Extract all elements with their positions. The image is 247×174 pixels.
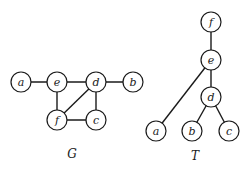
node-t-f: f: [201, 12, 221, 32]
node-label: d: [207, 91, 214, 104]
node-g-d: d: [86, 72, 106, 92]
node-t-a: a: [146, 121, 166, 141]
node-t-d: d: [201, 87, 221, 107]
node-label: d: [92, 76, 99, 89]
diagram-canvas: aedbfcG fedabcT: [0, 0, 247, 174]
node-g-b: b: [123, 72, 143, 92]
node-g-e: e: [47, 72, 67, 92]
node-g-f: f: [47, 110, 67, 130]
node-g-a: a: [11, 72, 31, 92]
node-t-b: b: [182, 121, 202, 141]
node-label: c: [226, 125, 232, 138]
node-label: e: [54, 76, 61, 89]
node-t-c: c: [219, 121, 239, 141]
node-label: b: [188, 125, 195, 138]
tree-t: fedabcT: [146, 12, 239, 163]
node-label: c: [93, 114, 99, 127]
graph-g: aedbfcG: [11, 72, 143, 161]
node-label: b: [129, 76, 136, 89]
node-label: a: [153, 125, 160, 138]
node-g-c: c: [86, 110, 106, 130]
caption-t: T: [191, 149, 200, 163]
caption-g: G: [67, 147, 77, 161]
node-label: e: [208, 54, 215, 67]
node-label: a: [18, 76, 25, 89]
node-t-e: e: [201, 50, 221, 70]
